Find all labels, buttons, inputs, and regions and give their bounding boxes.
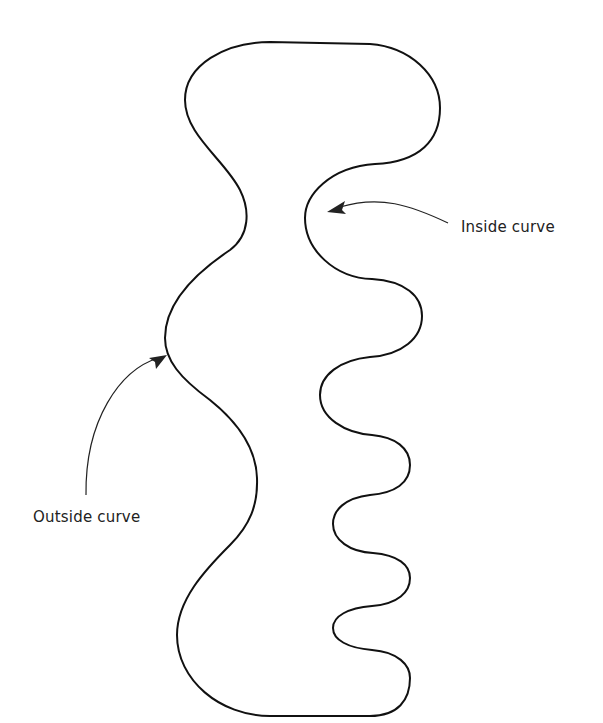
outside-curve-label: Outside curve [33, 508, 140, 526]
irregular-shape-outline [165, 42, 440, 716]
outside-arrowhead-icon [149, 355, 167, 369]
diagram-canvas [0, 0, 603, 723]
outside-curve-arrow [86, 355, 167, 495]
inside-curve-label: Inside curve [461, 218, 555, 236]
inside-arrowhead-icon [327, 201, 346, 214]
inside-curve-arrow [327, 201, 448, 223]
